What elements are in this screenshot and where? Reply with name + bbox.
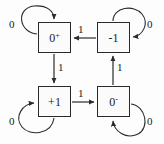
diagram-edges-layer: [0, 0, 164, 144]
state-node-zero-plus[interactable]: 0+: [38, 22, 71, 53]
state-label-zero-plus: 0+: [49, 32, 60, 44]
edge-label-zero-minus-to-minus-one: 1: [117, 62, 123, 73]
edge-label-minus-one-to-zero-plus: 1: [78, 24, 84, 35]
state-label-zero-minus: 0-: [109, 96, 118, 108]
edge-label-plus-one-to-zero-minus: 1: [78, 88, 84, 99]
self-loop-label-minus-one: 0: [147, 19, 153, 30]
state-diagram-canvas: 0+ -1 +1 0- 1 1 1 1 0 0 0 0: [0, 0, 164, 144]
state-node-minus-one[interactable]: -1: [97, 22, 130, 53]
edge-label-zero-plus-to-plus-one: 1: [58, 62, 64, 73]
state-node-zero-minus[interactable]: 0-: [97, 86, 130, 117]
self-loop-label-zero-plus: 0: [9, 19, 15, 30]
state-node-plus-one[interactable]: +1: [38, 86, 71, 117]
state-label-minus-one: -1: [109, 32, 119, 44]
self-loop-label-zero-minus: 0: [147, 116, 153, 127]
self-loop-label-plus-one: 0: [9, 116, 15, 127]
state-label-plus-one: +1: [48, 96, 61, 108]
